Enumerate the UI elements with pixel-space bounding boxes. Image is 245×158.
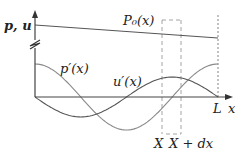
axis-break-icon xyxy=(30,40,40,49)
x-axis-label: x xyxy=(228,101,236,116)
x-axis-arrow-icon xyxy=(225,94,233,100)
L-label: L xyxy=(212,101,222,116)
y-axis-label: p, u xyxy=(4,18,32,33)
y-axis-arrow-icon xyxy=(32,10,38,18)
element-left-label: X xyxy=(153,136,164,151)
p-prime-label: p′(x) xyxy=(60,61,89,76)
element-right-label: X + dx xyxy=(168,136,214,151)
p0-label: P₀(x) xyxy=(122,13,154,28)
wave-diagram: p, u P₀(x) p′(x) u′(x) L x X X + dx xyxy=(0,0,245,158)
u-prime-label: u′(x) xyxy=(113,74,142,89)
